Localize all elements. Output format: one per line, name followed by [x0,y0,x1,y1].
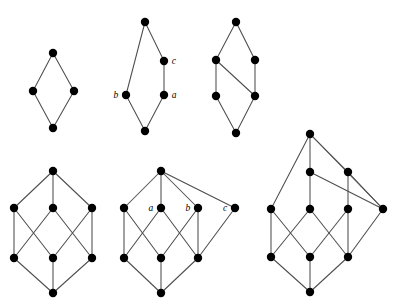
vertex-node [141,127,149,135]
vertex-node [88,254,96,262]
vertex-node [49,167,57,175]
vertex-label-a: a [172,90,177,100]
vertex-node [157,289,165,297]
vertex-node [157,204,165,212]
vertex-node [306,288,314,296]
vertex-node [49,204,57,212]
vertex-node [49,124,57,132]
vertex-node [49,289,57,297]
vertex-node [70,87,78,95]
vertex-node [157,254,165,262]
vertex-node [212,92,220,100]
vertex-node [306,130,314,138]
vertex-node [379,205,387,213]
vertex-node [306,253,314,261]
vertex-node [49,254,57,262]
vertex-node [49,49,57,57]
vertex-node [251,92,259,100]
vertex-label-b: b [114,90,119,100]
vertex-label-a: a [149,203,154,213]
vertex-node [344,168,352,176]
vertex-node [157,167,165,175]
vertex-node [212,56,220,64]
vertex-node [251,56,259,64]
vertex-node [160,57,168,65]
vertex-node [267,253,275,261]
vertex-node [10,204,18,212]
vertex-label-b: b [186,203,191,213]
vertex-node [194,204,202,212]
hasse-diagram-figure: cbaabc [0,0,397,302]
vertex-node [10,254,18,262]
vertex-node [29,87,37,95]
vertex-node [120,254,128,262]
vertex-node [88,204,96,212]
vertex-node [267,205,275,213]
vertex-node [232,129,240,137]
vertex-node [194,254,202,262]
vertex-node [122,91,130,99]
vertex-node [120,204,128,212]
vertex-node [141,18,149,26]
vertex-node [232,18,240,26]
vertex-node [306,205,314,213]
vertex-node [231,204,239,212]
vertex-node [344,253,352,261]
vertex-node [344,205,352,213]
vertex-node [306,168,314,176]
vertex-node [160,91,168,99]
